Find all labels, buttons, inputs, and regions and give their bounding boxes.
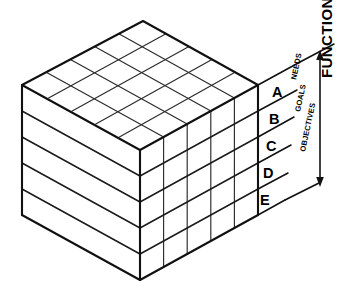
tier-label-a: A [272,84,283,100]
isometric-block-diagram: A B C D E NEEDS GOALS OBJECTIVES FUNCTIO… [0,0,340,297]
label-needs: NEEDS [289,52,303,80]
axis-baseline-bottom [285,183,319,200]
tier-label-group: A B C D E [260,84,283,208]
functions-axis-title: FUNCTIONS [318,0,335,78]
label-goals: GOALS [293,83,308,112]
down-arrow-icon [316,177,324,187]
tier-label-d: D [263,165,273,181]
tier-label-e: E [260,192,270,208]
bracket-label-group: NEEDS GOALS OBJECTIVES [289,52,317,152]
figure-container: A B C D E NEEDS GOALS OBJECTIVES FUNCTIO… [0,0,340,297]
axis-title-group: FUNCTIONS [318,0,335,78]
tier-label-c: C [266,138,277,154]
tier-label-b: B [269,111,279,127]
